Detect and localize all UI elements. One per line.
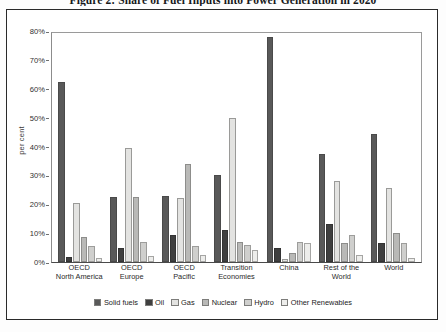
plot-wrapper: per cent 80%70%60%50%40%30%20%10%0% OECD… <box>7 10 439 321</box>
legend-item: Oil <box>145 298 164 307</box>
x-axis-label: World <box>368 264 420 292</box>
bar <box>162 196 169 262</box>
bar-groups <box>52 33 421 262</box>
y-tick-label: 30% <box>13 172 45 180</box>
x-axis-label: Rest of the World <box>315 264 367 292</box>
bar <box>386 188 393 262</box>
bar <box>96 258 103 262</box>
y-tick-mark <box>46 147 49 148</box>
y-tick-mark <box>46 205 49 206</box>
legend-label: Gas <box>181 298 195 307</box>
plot-area <box>51 32 422 263</box>
bar-group <box>158 33 210 262</box>
bar <box>289 253 296 262</box>
legend-item: Hydro <box>244 298 274 307</box>
bar <box>326 224 333 262</box>
bar-group <box>54 33 106 262</box>
legend-label: Oil <box>155 298 164 307</box>
bar <box>401 243 408 262</box>
legend-swatch-icon <box>171 299 179 307</box>
bar <box>222 230 229 262</box>
bar <box>110 197 117 262</box>
bar <box>282 259 289 262</box>
bar <box>304 243 311 262</box>
y-tick-mark <box>46 89 49 90</box>
y-tick-mark <box>46 32 49 33</box>
bar <box>393 233 400 262</box>
y-tick-label: 20% <box>13 201 45 209</box>
y-tick-label: 70% <box>13 57 45 65</box>
bar <box>140 242 147 262</box>
chart-title: Figure 2: Share of Fuel Inputs into Powe… <box>0 0 446 6</box>
bar <box>274 248 281 262</box>
figure-page: Figure 2: Share of Fuel Inputs into Powe… <box>0 0 446 332</box>
bar <box>81 237 88 262</box>
y-tick-mark <box>46 176 49 177</box>
x-axis-label: OECD Pacific <box>158 264 210 292</box>
bar <box>192 246 199 262</box>
y-tick-mark <box>46 234 49 235</box>
bar <box>408 258 415 262</box>
bar <box>214 175 221 262</box>
y-tick-label: 0% <box>13 259 45 267</box>
chart-legend: Solid fuelsOilGasNuclearHydroOther Renew… <box>7 298 439 307</box>
legend-item: Gas <box>171 298 195 307</box>
bar <box>349 235 356 262</box>
legend-item: Nuclear <box>202 298 237 307</box>
bar <box>297 242 304 262</box>
legend-swatch-icon <box>244 299 252 307</box>
bar <box>73 203 80 262</box>
bar <box>88 246 95 262</box>
y-tick-label: 60% <box>13 86 45 94</box>
bar <box>185 164 192 262</box>
bar <box>319 154 326 262</box>
x-axis-label: China <box>263 264 315 292</box>
figure-frame: per cent 80%70%60%50%40%30%20%10%0% OECD… <box>6 9 438 320</box>
bar <box>148 256 155 262</box>
bar <box>244 245 251 262</box>
bar <box>133 197 140 262</box>
y-tick-mark <box>46 263 49 264</box>
bar <box>267 37 274 262</box>
bar-group <box>263 33 315 262</box>
legend-item: Solid fuels <box>94 298 138 307</box>
x-axis-labels: OECD North AmericaOECD EuropeOECD Pacifi… <box>51 264 422 292</box>
bar <box>177 198 184 262</box>
legend-swatch-icon <box>145 299 153 307</box>
legend-item: Other Renewables <box>281 298 352 307</box>
bar-group <box>367 33 419 262</box>
bar <box>58 82 65 262</box>
legend-label: Hydro <box>254 298 274 307</box>
bar-group <box>210 33 262 262</box>
bar <box>66 257 73 262</box>
bar <box>200 255 207 262</box>
legend-label: Other Renewables <box>291 298 352 307</box>
bar <box>170 235 177 262</box>
legend-label: Nuclear <box>212 298 237 307</box>
bar <box>341 243 348 262</box>
bar <box>371 134 378 262</box>
y-tick-label: 50% <box>13 115 45 123</box>
legend-swatch-icon <box>94 299 102 307</box>
bar <box>125 148 132 262</box>
legend-swatch-icon <box>281 299 289 307</box>
y-tick-mark <box>46 118 49 119</box>
bar-group <box>106 33 158 262</box>
bar <box>229 118 236 262</box>
y-tick-label: 40% <box>13 144 45 152</box>
legend-swatch-icon <box>202 299 210 307</box>
x-axis-label: OECD North America <box>53 264 105 292</box>
y-tick-label: 10% <box>13 230 45 238</box>
y-tick-mark <box>46 60 49 61</box>
bar <box>378 243 385 262</box>
x-axis-label: Transition Economies <box>210 264 262 292</box>
bar <box>356 255 363 262</box>
bar-group <box>315 33 367 262</box>
bar <box>118 248 125 262</box>
x-axis-label: OECD Europe <box>105 264 157 292</box>
bar <box>334 181 341 262</box>
y-tick-label: 80% <box>13 28 45 36</box>
bar <box>237 242 244 262</box>
bar <box>252 250 259 262</box>
legend-label: Solid fuels <box>104 298 138 307</box>
